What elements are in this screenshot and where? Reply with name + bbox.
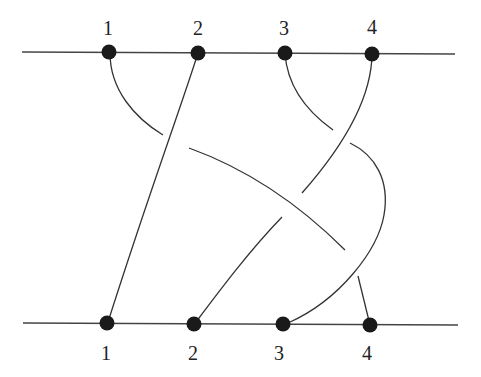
top-node-4 — [365, 47, 380, 62]
bottom-node-4 — [363, 318, 378, 333]
top-label-3: 3 — [279, 17, 289, 39]
strand-1 — [110, 53, 163, 135]
bottom-node-1 — [100, 316, 115, 331]
strand-3 — [288, 143, 385, 323]
strand-1 — [358, 276, 370, 325]
bottom-label-4: 4 — [362, 342, 372, 364]
strand-3 — [285, 53, 333, 130]
top-label-4: 4 — [367, 16, 377, 38]
bottom-label-3: 3 — [274, 342, 284, 364]
bottom-label-1: 1 — [101, 342, 111, 364]
top-node-1 — [102, 45, 117, 60]
bottom-label-2: 2 — [188, 342, 198, 364]
top-rail — [22, 52, 455, 54]
top-node-3 — [278, 46, 293, 61]
bottom-node-3 — [276, 317, 291, 332]
top-label-2: 2 — [193, 17, 203, 39]
strand-4 — [302, 53, 372, 193]
strand-4 — [196, 217, 282, 322]
top-label-1: 1 — [103, 17, 113, 39]
bottom-node-2 — [187, 317, 202, 332]
strand-1 — [189, 148, 345, 250]
braid-diagram: 1 2 3 4 1 2 3 4 — [0, 0, 481, 377]
bottom-rail — [23, 323, 458, 325]
top-node-2 — [191, 46, 206, 61]
